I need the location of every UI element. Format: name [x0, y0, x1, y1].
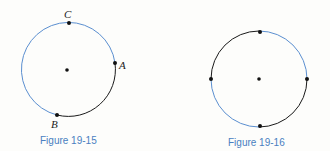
blue-arc-bottom-left [211, 79, 259, 127]
point-c [67, 21, 71, 25]
point-bottom [258, 124, 262, 128]
label-a: A [118, 59, 126, 71]
center-point [257, 77, 261, 81]
point-top [258, 30, 262, 34]
point-right [305, 77, 309, 81]
center-point [65, 68, 69, 72]
figure-19-16: Figure 19-16 [209, 30, 309, 148]
blue-arc-top-right [259, 31, 307, 79]
point-a [113, 61, 117, 65]
black-arc-left-top [211, 31, 259, 79]
figure-caption: Figure 19-16 [228, 137, 285, 148]
point-b [55, 113, 59, 117]
figure-19-15: C A B Figure 19-15 [21, 8, 126, 146]
black-arc-right-bottom [259, 79, 307, 127]
label-b: B [51, 118, 58, 130]
figures-canvas: C A B Figure 19-15 Figure 19-16 [0, 0, 330, 151]
point-left [209, 77, 213, 81]
figure-caption: Figure 19-15 [40, 135, 97, 146]
label-c: C [64, 8, 72, 20]
